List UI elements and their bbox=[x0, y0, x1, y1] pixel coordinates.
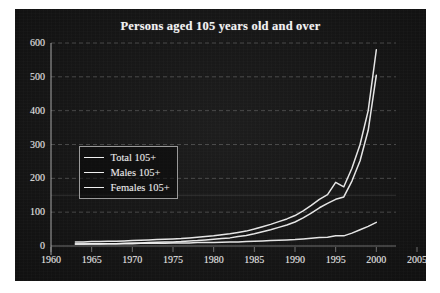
chart-screenshot: Persons aged 105 years old and over 0100… bbox=[0, 0, 440, 293]
y-tick-label-100: 100 bbox=[19, 206, 45, 217]
y-tick-label-0: 0 bbox=[19, 240, 45, 251]
legend-item-label: Females 105+ bbox=[110, 182, 169, 193]
y-tick-label-400: 400 bbox=[19, 105, 45, 116]
x-tick-label-1970: 1970 bbox=[115, 254, 149, 265]
legend-item-label: Males 105+ bbox=[110, 167, 160, 178]
legend-item-label: Total 105+ bbox=[110, 152, 156, 163]
plot-area bbox=[15, 9, 426, 281]
chart-title: Persons aged 105 years old and over bbox=[15, 19, 426, 34]
legend-swatch-icon bbox=[84, 172, 104, 173]
y-tick-label-300: 300 bbox=[19, 139, 45, 150]
x-tick-label-1985: 1985 bbox=[237, 254, 271, 265]
x-tick-label-1990: 1990 bbox=[278, 254, 312, 265]
gridlines bbox=[51, 43, 396, 246]
legend-swatch-icon bbox=[84, 157, 104, 158]
x-tick-label-1975: 1975 bbox=[156, 254, 190, 265]
chart-legend: Total 105+Males 105+Females 105+ bbox=[79, 146, 177, 199]
x-tick-label-2005: 2005 bbox=[400, 254, 426, 265]
y-tick-label-200: 200 bbox=[19, 172, 45, 183]
legend-item-males-105: Males 105+ bbox=[84, 165, 169, 180]
y-tick-label-500: 500 bbox=[19, 71, 45, 82]
legend-swatch-icon bbox=[84, 187, 104, 188]
x-tick-label-2000: 2000 bbox=[359, 254, 393, 265]
legend-item-females-105: Females 105+ bbox=[84, 180, 169, 195]
y-tick-label-600: 600 bbox=[19, 37, 45, 48]
x-tick-label-1960: 1960 bbox=[34, 254, 68, 265]
x-tick-label-1965: 1965 bbox=[75, 254, 109, 265]
x-tick-label-1995: 1995 bbox=[319, 254, 353, 265]
chart-panel: Persons aged 105 years old and over 0100… bbox=[15, 9, 426, 281]
x-tick-label-1980: 1980 bbox=[197, 254, 231, 265]
legend-item-total-105: Total 105+ bbox=[84, 150, 169, 165]
